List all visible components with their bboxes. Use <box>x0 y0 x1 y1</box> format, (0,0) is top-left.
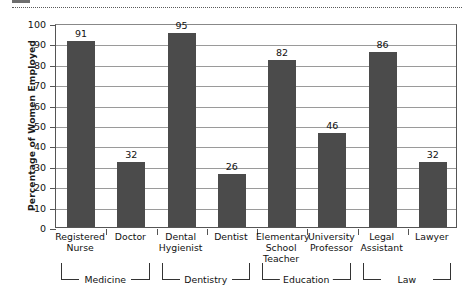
y-axis-tick-label: 10 <box>0 202 46 213</box>
bar-slot: 32 <box>106 25 156 227</box>
category-label-line: Lawyer <box>407 231 457 242</box>
bar-slot: 95 <box>157 25 207 227</box>
bar-value-label: 32 <box>125 149 137 160</box>
y-axis-tick-label: 90 <box>0 39 46 50</box>
group-bracket: Education <box>262 263 351 285</box>
bracket-right-arm <box>249 263 250 280</box>
bar <box>117 162 145 227</box>
category-label-line: School <box>256 242 306 253</box>
bar-value-label: 91 <box>75 28 87 39</box>
group-bracket: Law <box>363 263 452 285</box>
y-axis-tick-label: 40 <box>0 141 46 152</box>
bar <box>318 133 346 227</box>
group-bracket: Dentistry <box>162 263 251 285</box>
group-label: Law <box>395 274 419 285</box>
y-axis-tick-label: 20 <box>0 182 46 193</box>
bar <box>218 174 246 227</box>
bar <box>268 60 296 227</box>
x-axis-category-label: DentalHygienist <box>156 231 206 253</box>
group-bracket: Medicine <box>61 263 150 285</box>
dotted-cut-line <box>12 7 462 8</box>
bar <box>419 162 447 227</box>
x-axis-category-label: ElementarySchoolTeacher <box>256 231 306 265</box>
category-label-line: Assistant <box>357 242 407 253</box>
bracket-bottom-left <box>61 279 79 280</box>
bar <box>369 52 397 227</box>
group-brackets: MedicineDentistryEducationLaw <box>55 263 457 293</box>
y-axis-tick-label: 100 <box>0 19 46 30</box>
bracket-right-arm <box>149 263 150 280</box>
bar <box>168 33 196 227</box>
bar-value-label: 32 <box>427 149 439 160</box>
category-label-line: Dentist <box>206 231 256 242</box>
x-axis-category-labels: RegisteredNurseDoctorDentalHygienistDent… <box>55 231 457 265</box>
category-label-line: Legal <box>357 231 407 242</box>
bar-value-label: 86 <box>377 39 389 50</box>
bracket-bottom-right <box>131 279 149 280</box>
category-label-line: Dental <box>156 231 206 242</box>
x-axis-category-label: RegisteredNurse <box>55 231 105 253</box>
bracket-right-arm <box>350 263 351 280</box>
y-axis-tick-label: 60 <box>0 100 46 111</box>
bracket-left-arm <box>363 263 364 280</box>
bracket-bottom-right <box>232 279 250 280</box>
x-axis-category-label: Doctor <box>105 231 155 242</box>
bracket-bottom-left <box>363 279 381 280</box>
bar-slot: 91 <box>56 25 106 227</box>
bracket-bottom-right <box>332 279 350 280</box>
y-axis-tick-label: 0 <box>0 223 46 234</box>
x-axis-category-label: Dentist <box>206 231 256 242</box>
category-label-line: Professor <box>306 242 356 253</box>
bar-slot: 82 <box>257 25 307 227</box>
y-axis-tick-label: 30 <box>0 161 46 172</box>
group-label: Education <box>280 274 332 285</box>
y-axis-tick-label: 80 <box>0 59 46 70</box>
x-axis-category-label: Lawyer <box>407 231 457 242</box>
bar-slot: 86 <box>358 25 408 227</box>
category-label-line: Nurse <box>55 242 105 253</box>
category-label-line: Doctor <box>105 231 155 242</box>
page-edge-mark <box>12 0 30 3</box>
y-axis-tick-label: 50 <box>0 121 46 132</box>
category-label-line: Elementary <box>256 231 306 242</box>
bar-value-label: 82 <box>276 47 288 58</box>
group-label: Medicine <box>81 274 129 285</box>
bracket-bottom-left <box>162 279 180 280</box>
bracket-right-arm <box>450 263 451 280</box>
plot-area: 9132952682468632 <box>55 24 457 228</box>
bar <box>67 41 95 227</box>
y-axis-tick-label: 70 <box>0 80 46 91</box>
bar-value-label: 95 <box>176 20 188 31</box>
bracket-bottom-left <box>262 279 280 280</box>
x-axis-category-label: LegalAssistant <box>357 231 407 253</box>
bar-slot: 46 <box>307 25 357 227</box>
bar-slot: 32 <box>408 25 458 227</box>
category-label-line: Hygienist <box>156 242 206 253</box>
bar-slot: 26 <box>207 25 257 227</box>
bracket-left-arm <box>262 263 263 280</box>
bar-chart-figure: Percentage of Women Employed 10090807060… <box>0 0 471 296</box>
bracket-bottom-right <box>433 279 451 280</box>
category-label-line: University <box>306 231 356 242</box>
group-label: Dentistry <box>181 274 230 285</box>
category-label-line: Registered <box>55 231 105 242</box>
bar-value-label: 26 <box>226 161 238 172</box>
x-axis-category-label: UniversityProfessor <box>306 231 356 253</box>
bracket-left-arm <box>61 263 62 280</box>
bar-value-label: 46 <box>326 120 338 131</box>
bracket-left-arm <box>162 263 163 280</box>
y-axis-tick-mark <box>50 229 56 230</box>
